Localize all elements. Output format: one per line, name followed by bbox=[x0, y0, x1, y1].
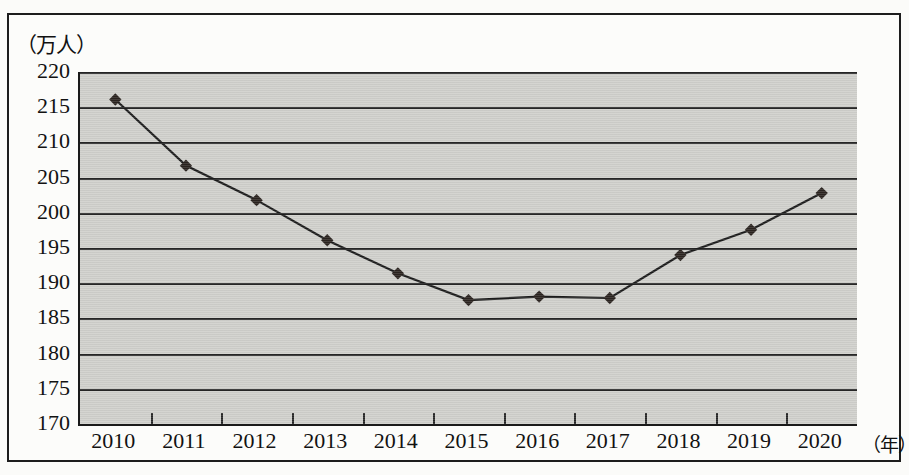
x-axis-tick-label: 2010 bbox=[91, 428, 135, 454]
x-axis-tick-label: 2011 bbox=[162, 428, 205, 454]
plot-area bbox=[78, 72, 857, 426]
data-series bbox=[80, 72, 857, 424]
x-axis-tick-label: 2016 bbox=[515, 428, 559, 454]
x-axis-tick-label: 2017 bbox=[586, 428, 630, 454]
y-axis-tick-label: 220 bbox=[37, 58, 70, 84]
x-axis-tick-label: 2020 bbox=[798, 428, 842, 454]
y-axis-tick-label: 210 bbox=[37, 129, 70, 155]
y-axis-tick-label: 185 bbox=[37, 305, 70, 331]
y-axis-tick-label: 170 bbox=[37, 410, 70, 436]
x-axis-tick-label: 2012 bbox=[233, 428, 277, 454]
data-point-marker bbox=[462, 294, 474, 306]
chart-figure: （万人） （年） 1701751801851901952002052102152… bbox=[0, 0, 909, 475]
data-point-marker bbox=[392, 267, 404, 279]
data-point-marker bbox=[250, 194, 262, 206]
data-point-marker bbox=[604, 292, 616, 304]
y-axis-unit-label: （万人） bbox=[16, 28, 96, 58]
x-axis-tick-label: 2019 bbox=[727, 428, 771, 454]
y-axis-tick-label: 190 bbox=[37, 270, 70, 296]
data-point-marker bbox=[745, 223, 757, 235]
data-point-marker bbox=[533, 290, 545, 302]
y-axis-tick-label: 205 bbox=[37, 164, 70, 190]
y-axis-tick-label: 200 bbox=[37, 199, 70, 225]
y-axis-tick-label: 180 bbox=[37, 340, 70, 366]
y-axis-tick-label: 215 bbox=[37, 94, 70, 120]
data-point-marker bbox=[321, 234, 333, 246]
y-axis-tick-labels: 170175180185190195200205210215220 bbox=[0, 72, 70, 424]
data-point-marker bbox=[815, 187, 827, 199]
x-axis-tick-label: 2015 bbox=[445, 428, 489, 454]
x-axis-tick-label: 2013 bbox=[303, 428, 347, 454]
y-axis-tick-label: 175 bbox=[37, 375, 70, 401]
y-axis-tick-label: 195 bbox=[37, 234, 70, 260]
x-axis-tick-label: 2014 bbox=[374, 428, 418, 454]
x-axis-tick-label: 2018 bbox=[656, 428, 700, 454]
x-axis-unit-label: （年） bbox=[862, 430, 909, 457]
series-line bbox=[115, 100, 821, 301]
data-point-marker bbox=[674, 249, 686, 261]
